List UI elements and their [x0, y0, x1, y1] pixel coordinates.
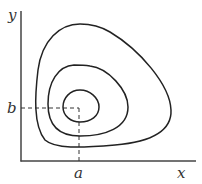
y-axis-label: y — [7, 6, 17, 24]
b-label: b — [7, 99, 17, 117]
x-axis-label: x — [177, 164, 186, 182]
phase-diagram: y b a x — [0, 0, 202, 184]
orbit-middle — [48, 65, 128, 136]
a-label: a — [74, 164, 83, 182]
orbit-inner — [63, 90, 99, 122]
